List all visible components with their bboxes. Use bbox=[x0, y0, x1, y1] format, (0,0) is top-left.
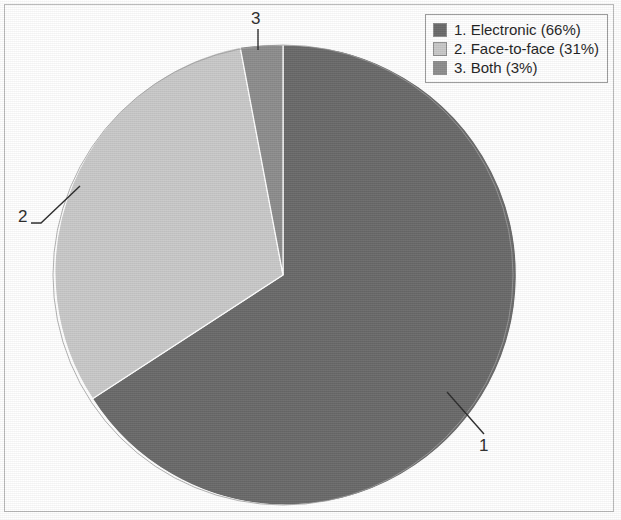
legend-item-face-to-face[interactable]: 2. Face-to-face (31%) bbox=[433, 39, 599, 58]
slice-callout-2: 2 bbox=[18, 208, 27, 225]
slice-callout-3: 3 bbox=[251, 10, 260, 27]
legend-item-electronic[interactable]: 1. Electronic (66%) bbox=[433, 20, 599, 39]
legend-label-electronic: 1. Electronic (66%) bbox=[454, 21, 581, 38]
legend-item-both[interactable]: 3. Both (3%) bbox=[433, 58, 599, 77]
slice-callout-1: 1 bbox=[479, 437, 488, 454]
pie-chart-screenshot: 1 2 3 1. Electronic (66%) 2. Face-to-fac… bbox=[0, 0, 621, 520]
legend-label-both: 3. Both (3%) bbox=[454, 59, 537, 76]
legend-label-face-to-face: 2. Face-to-face (31%) bbox=[454, 40, 599, 57]
legend-swatch-icon-both bbox=[433, 61, 447, 75]
chart-legend: 1. Electronic (66%) 2. Face-to-face (31%… bbox=[425, 14, 608, 83]
legend-swatch-icon-electronic bbox=[433, 23, 447, 37]
legend-swatch-icon-face-to-face bbox=[433, 42, 447, 56]
plot-area: 1 2 3 1. Electronic (66%) 2. Face-to-fac… bbox=[0, 0, 621, 520]
